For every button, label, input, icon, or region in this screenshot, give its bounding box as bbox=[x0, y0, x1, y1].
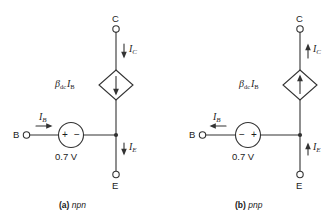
circuit-pnp: C E B IC IE IB βdc IB − + 0.7 V (b) pnp bbox=[166, 0, 331, 219]
collector-terminal-node bbox=[297, 26, 303, 32]
base-current-subscript: B bbox=[216, 116, 220, 124]
source-voltage-label: 0.7 V bbox=[55, 152, 77, 162]
base-current-arrow-head bbox=[46, 123, 52, 128]
emitter-current-subscript: E bbox=[316, 146, 320, 154]
source-left-polarity: − bbox=[239, 130, 245, 140]
collector-current-subscript: C bbox=[316, 48, 321, 56]
beta-subscript: dc bbox=[60, 83, 66, 90]
collector-terminal-node bbox=[113, 26, 119, 32]
source-voltage-label: 0.7 V bbox=[232, 152, 254, 162]
collector-current-subscript: C bbox=[132, 48, 137, 56]
base-terminal-label: B bbox=[13, 130, 19, 140]
base-current-subscript: B bbox=[42, 116, 46, 124]
caption-name: pnp bbox=[248, 200, 262, 210]
caption-pnp: (b) pnp bbox=[235, 200, 262, 210]
collector-current-arrow-head bbox=[305, 44, 311, 51]
dependent-source-label: βdc IB bbox=[239, 79, 259, 89]
circuit-npn: C E B IC IE IB βdc IB + − 0.7 V (a) npn bbox=[0, 0, 165, 219]
base-current-label: IB bbox=[39, 112, 47, 122]
caption-npn: (a) npn bbox=[59, 200, 86, 210]
emitter-current-label: IE bbox=[313, 142, 321, 152]
collector-terminal-label: C bbox=[296, 14, 303, 24]
emitter-current-arrow-head bbox=[305, 143, 311, 150]
collector-current-arrow-head bbox=[121, 52, 127, 59]
caption-name: npn bbox=[72, 200, 86, 210]
emitter-terminal-node bbox=[297, 171, 303, 177]
emitter-current-arrow-head bbox=[121, 149, 127, 156]
base-terminal-label: B bbox=[189, 130, 195, 140]
base-terminal-node bbox=[199, 132, 205, 138]
emitter-current-label: IE bbox=[129, 142, 137, 152]
beta-subscript: dc bbox=[244, 83, 250, 90]
source-right-polarity: − bbox=[74, 130, 80, 140]
base-current-arrow-head bbox=[210, 123, 216, 128]
emitter-terminal-label: E bbox=[296, 181, 302, 191]
figure-bjt-dc-models: C E B IC IE IB βdc IB + − 0.7 V (a) npn bbox=[0, 0, 331, 219]
caption-tag: (a) bbox=[59, 200, 69, 210]
emitter-current-subscript: E bbox=[132, 146, 136, 154]
base-terminal-node bbox=[23, 132, 29, 138]
collector-current-label: IC bbox=[313, 44, 321, 54]
beta-current-subscript: B bbox=[70, 83, 74, 90]
collector-current-label: IC bbox=[129, 44, 137, 54]
source-left-polarity: + bbox=[62, 130, 68, 140]
emitter-terminal-label: E bbox=[112, 181, 118, 191]
collector-terminal-label: C bbox=[112, 14, 119, 24]
circuit-npn-schematic bbox=[0, 0, 165, 219]
beta-current-subscript: B bbox=[254, 83, 258, 90]
source-right-polarity: + bbox=[251, 130, 257, 140]
caption-tag: (b) bbox=[235, 200, 246, 210]
base-current-label: IB bbox=[213, 112, 221, 122]
circuit-pnp-schematic bbox=[166, 0, 331, 219]
emitter-terminal-node bbox=[113, 171, 119, 177]
dependent-source-label: βdc IB bbox=[55, 79, 75, 89]
